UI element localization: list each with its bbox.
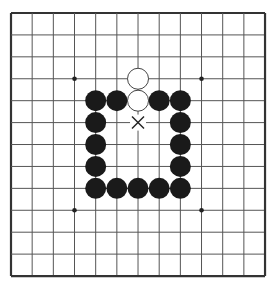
board-grid bbox=[11, 13, 265, 276]
star-point bbox=[199, 208, 204, 213]
black-stone bbox=[85, 90, 106, 111]
black-stone bbox=[85, 156, 106, 177]
black-stone bbox=[170, 90, 191, 111]
white-stone bbox=[128, 90, 149, 111]
black-stone bbox=[85, 178, 106, 199]
black-stone bbox=[170, 112, 191, 133]
black-stone bbox=[128, 178, 149, 199]
black-stone bbox=[149, 90, 170, 111]
white-stone bbox=[128, 68, 149, 89]
black-stone bbox=[170, 178, 191, 199]
black-stone bbox=[85, 134, 106, 155]
star-point bbox=[199, 76, 204, 81]
black-stone bbox=[170, 134, 191, 155]
black-stone bbox=[106, 178, 127, 199]
black-stone bbox=[149, 178, 170, 199]
star-point bbox=[72, 208, 77, 213]
marks-layer bbox=[130, 115, 146, 131]
star-point bbox=[72, 76, 77, 81]
black-stone bbox=[85, 112, 106, 133]
black-stone bbox=[170, 156, 191, 177]
go-board[interactable] bbox=[0, 0, 277, 289]
black-stone bbox=[106, 90, 127, 111]
